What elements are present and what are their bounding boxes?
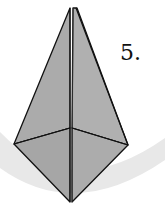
origami-figure — [0, 0, 165, 212]
diagram-canvas: 5. — [0, 0, 165, 212]
step-number: 5. — [120, 42, 141, 64]
left-face — [14, 8, 70, 144]
